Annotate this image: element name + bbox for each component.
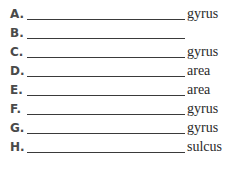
list-item-f: F. gyrus	[0, 101, 233, 120]
item-letter: G.	[10, 120, 24, 136]
item-letter: F.	[10, 101, 21, 117]
item-suffix: gyrus	[187, 6, 218, 22]
item-letter: A.	[10, 6, 24, 22]
answer-blank[interactable]	[27, 76, 185, 77]
item-letter: H.	[10, 139, 25, 155]
item-suffix: gyrus	[187, 44, 218, 60]
item-letter: E.	[10, 82, 23, 98]
answer-blank[interactable]	[27, 114, 185, 115]
item-suffix: gyrus	[187, 101, 218, 117]
item-suffix: sulcus	[187, 139, 222, 155]
item-letter: C.	[10, 44, 23, 60]
item-letter: B.	[10, 25, 24, 41]
answer-blank[interactable]	[27, 38, 185, 39]
answer-blank[interactable]	[27, 95, 185, 96]
item-suffix: area	[187, 82, 210, 98]
list-item-b: B.	[0, 25, 233, 44]
list-item-d: D. area	[0, 63, 233, 82]
list-item-e: E. area	[0, 82, 233, 101]
item-suffix: area	[187, 63, 210, 79]
list-item-a: A. gyrus	[0, 6, 233, 25]
answer-blank[interactable]	[27, 133, 185, 134]
item-letter: D.	[10, 63, 25, 79]
answer-blank[interactable]	[27, 57, 185, 58]
list-item-h: H. sulcus	[0, 139, 233, 158]
list-item-g: G. gyrus	[0, 120, 233, 139]
item-suffix: gyrus	[187, 120, 218, 136]
answer-blank[interactable]	[27, 19, 185, 20]
list-item-c: C. gyrus	[0, 44, 233, 63]
answer-blank[interactable]	[27, 152, 185, 153]
